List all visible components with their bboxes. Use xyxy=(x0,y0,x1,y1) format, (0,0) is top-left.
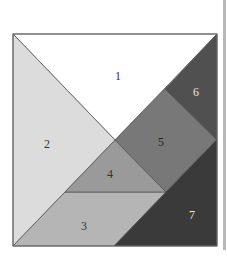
piece-label-4: 4 xyxy=(107,167,113,181)
piece-label-2: 2 xyxy=(44,137,50,151)
piece-label-5: 5 xyxy=(158,135,164,149)
piece-label-1: 1 xyxy=(115,69,121,83)
piece-label-6: 6 xyxy=(193,85,199,99)
piece-label-7: 7 xyxy=(189,208,195,222)
tangram-diagram: 1234567 xyxy=(0,0,227,259)
piece-label-3: 3 xyxy=(81,219,87,233)
right-edge-bar xyxy=(223,0,226,250)
